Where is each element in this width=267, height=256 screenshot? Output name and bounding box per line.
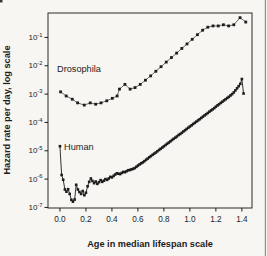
data-point: [186, 43, 189, 46]
data-point: [94, 180, 97, 183]
y-axis-ticks: 10-110-210-310-410-510-610-7: [28, 32, 48, 212]
data-point: [59, 90, 62, 93]
data-point: [81, 190, 84, 193]
data-point: [76, 101, 79, 104]
data-point: [144, 79, 147, 82]
data-point: [201, 29, 204, 32]
data-point: [222, 23, 225, 26]
x-tick-label: 0.2: [80, 215, 92, 224]
x-tick-label: 1.0: [184, 215, 196, 224]
data-point: [129, 88, 132, 91]
y-tick-label: 10-1: [28, 32, 42, 42]
data-point: [68, 193, 71, 196]
data-point: [196, 33, 199, 36]
data-point: [244, 21, 247, 24]
data-point: [170, 56, 173, 59]
data-point: [124, 83, 127, 86]
data-point: [89, 101, 92, 104]
data-point: [83, 194, 86, 197]
data-point: [139, 83, 142, 86]
y-tick-label: 10-6: [28, 173, 42, 183]
data-point: [118, 88, 121, 91]
data-point: [59, 145, 62, 148]
data-point: [62, 178, 65, 181]
data-point: [175, 52, 178, 55]
label-human: Human: [64, 142, 94, 152]
data-point: [86, 185, 89, 188]
data-point: [90, 177, 93, 180]
data-point: [239, 16, 242, 19]
data-point: [100, 101, 103, 104]
series-human: [59, 78, 245, 203]
plot-frame: [48, 13, 252, 208]
data-point: [212, 25, 215, 28]
data-point: [242, 92, 245, 95]
data-point: [88, 181, 91, 184]
chart-svg: 10-110-210-310-410-510-610-7 0.00.20.40.…: [0, 0, 267, 256]
x-tick-label: 0.4: [106, 215, 118, 224]
y-axis-title: Hazard rate per day, log scale: [2, 45, 12, 174]
series-line: [61, 18, 246, 105]
label-drosophila: Drosophila: [57, 64, 102, 74]
data-point: [180, 47, 183, 50]
data-point: [80, 193, 83, 196]
data-point: [94, 103, 97, 106]
x-tick-label: 0.8: [158, 215, 170, 224]
scan-corner-speck: [0, 0, 3, 3]
x-axis-title: Age in median lifespan scale: [87, 239, 213, 249]
data-point: [241, 78, 244, 81]
data-point: [165, 61, 168, 64]
data-point: [75, 183, 78, 186]
data-point: [60, 174, 63, 177]
data-point: [65, 190, 68, 193]
data-point: [232, 23, 235, 26]
y-tick-label: 10-2: [28, 60, 42, 70]
series-drosophila: [59, 16, 247, 106]
x-tick-label: 1.2: [210, 215, 222, 224]
x-tick-label: 1.4: [236, 215, 248, 224]
data-point: [237, 85, 240, 88]
x-tick-label: 0.6: [132, 215, 144, 224]
data-point: [206, 26, 209, 29]
data-point: [105, 99, 108, 102]
y-tick-label: 10-5: [28, 145, 42, 155]
data-point: [67, 188, 70, 191]
hazard-rate-figure: 10-110-210-310-410-510-610-7 0.00.20.40.…: [0, 0, 267, 256]
data-point: [83, 104, 86, 107]
x-axis-ticks: 0.00.20.40.60.81.01.21.4: [54, 208, 248, 224]
data-point: [227, 25, 230, 28]
x-tick-label: 0.0: [54, 215, 66, 224]
data-point: [73, 198, 76, 201]
data-point: [65, 95, 68, 98]
data-point: [71, 98, 74, 101]
data-point: [154, 70, 157, 73]
data-point: [160, 65, 163, 68]
data-point: [239, 83, 242, 86]
series-line: [60, 79, 244, 202]
y-tick-label: 10-4: [28, 117, 43, 127]
series-markers: [59, 78, 245, 203]
data-point: [217, 25, 220, 28]
y-tick-label: 10-3: [28, 88, 42, 98]
data-point: [85, 191, 88, 194]
data-point: [111, 97, 114, 100]
series-markers: [59, 16, 247, 106]
data-point: [191, 38, 194, 41]
y-tick-label: 10-7: [28, 202, 42, 212]
data-point: [134, 86, 137, 89]
data-point: [77, 188, 80, 191]
data-point: [149, 74, 152, 77]
data-point: [116, 95, 119, 98]
